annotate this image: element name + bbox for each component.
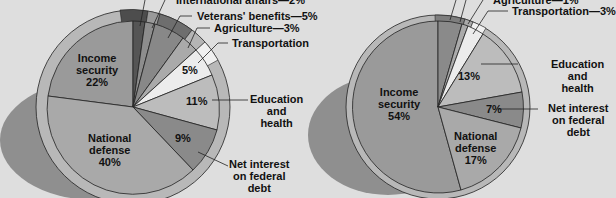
edu-line2: and xyxy=(250,105,303,117)
label-international-affairs: International affairs—2% xyxy=(176,0,305,6)
label-transportation: Transportation xyxy=(232,37,309,49)
defense-line2: defense xyxy=(454,142,497,154)
label-agriculture: Agriculture—3% xyxy=(214,22,300,34)
label-education: Education and health xyxy=(250,93,303,129)
int-line2: on federal xyxy=(229,170,290,182)
defense-pct: 17% xyxy=(454,154,497,166)
label-education: Education and health xyxy=(551,58,604,94)
label-interest: Net interest on federal debt xyxy=(548,102,609,138)
label-national-defense: National defense 17% xyxy=(454,130,497,166)
edu-line1: Education xyxy=(551,58,604,70)
edu-line1: Education xyxy=(250,93,303,105)
label-veterans: Veterans' benefits—5% xyxy=(197,10,318,22)
edu-line3: health xyxy=(551,82,604,94)
income-line2: security xyxy=(76,64,118,76)
label-interest-pct: 7% xyxy=(486,103,502,115)
label-transportation: Transportation—3% xyxy=(512,5,616,17)
income-line1: Income xyxy=(76,52,118,64)
income-pct: 22% xyxy=(76,76,118,88)
defense-line2: defense xyxy=(88,144,131,156)
int-line3: debt xyxy=(548,126,609,138)
label-education-pct: 11% xyxy=(186,95,207,107)
int-line2: on federal xyxy=(548,114,609,126)
income-pct: 54% xyxy=(378,110,420,122)
defense-line1: National xyxy=(88,132,131,144)
label-national-defense: National defense 40% xyxy=(88,132,131,168)
label-income-security: Income security 54% xyxy=(378,86,420,122)
int-line1: Net interest xyxy=(548,102,609,114)
pie-chart-left: International affairs—2% Veterans' benef… xyxy=(0,0,308,198)
edu-line2: and xyxy=(551,70,604,82)
label-interest-pct: 9% xyxy=(175,132,191,144)
pie-chart-right: Agriculture—1% Transportation—3% 13% Edu… xyxy=(308,0,615,198)
label-education-pct: 13% xyxy=(458,70,480,82)
int-line1: Net interest xyxy=(229,158,290,170)
label-interest: Net interest on federal debt xyxy=(229,158,290,194)
defense-line1: National xyxy=(454,130,497,142)
label-income-security: Income security 22% xyxy=(76,52,118,88)
int-line3: debt xyxy=(229,182,290,194)
pie-right-graphic xyxy=(308,0,615,198)
defense-pct: 40% xyxy=(88,156,131,168)
label-transportation-pct: 5% xyxy=(182,64,198,76)
edu-line3: health xyxy=(250,117,303,129)
income-line2: security xyxy=(378,98,420,110)
income-line1: Income xyxy=(378,86,420,98)
